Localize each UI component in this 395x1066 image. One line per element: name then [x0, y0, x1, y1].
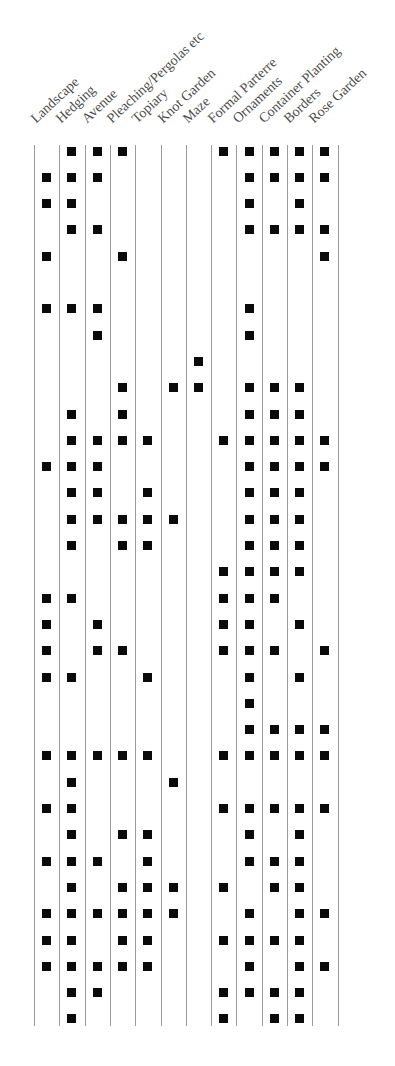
feature-marker: [245, 988, 254, 997]
feature-marker: [42, 594, 51, 603]
feature-marker: [270, 488, 279, 497]
feature-marker: [270, 804, 279, 813]
feature-marker: [194, 357, 203, 366]
feature-marker: [245, 594, 254, 603]
feature-marker: [67, 804, 76, 813]
feature-marker: [42, 646, 51, 655]
feature-marker: [295, 383, 304, 392]
feature-marker: [270, 225, 279, 234]
column-divider: [110, 145, 111, 1026]
feature-marker: [270, 646, 279, 655]
feature-marker: [320, 462, 329, 471]
feature-marker: [245, 383, 254, 392]
feature-marker: [67, 225, 76, 234]
feature-marker: [320, 751, 329, 760]
feature-marker: [245, 515, 254, 524]
feature-marker: [169, 515, 178, 524]
feature-marker: [67, 936, 76, 945]
feature-marker: [118, 147, 127, 156]
column-divider: [287, 145, 288, 1026]
feature-marker: [93, 646, 102, 655]
feature-marker: [295, 199, 304, 208]
feature-marker: [93, 436, 102, 445]
feature-marker: [245, 488, 254, 497]
feature-marker: [270, 436, 279, 445]
feature-marker: [245, 857, 254, 866]
feature-marker: [245, 699, 254, 708]
feature-marker: [219, 751, 228, 760]
feature-marker: [295, 147, 304, 156]
feature-marker: [42, 673, 51, 682]
feature-marker: [219, 804, 228, 813]
feature-marker: [320, 173, 329, 182]
feature-marker: [67, 778, 76, 787]
feature-marker: [270, 936, 279, 945]
feature-marker: [245, 804, 254, 813]
feature-marker: [245, 173, 254, 182]
feature-marker: [295, 620, 304, 629]
feature-marker: [245, 147, 254, 156]
feature-marker: [295, 541, 304, 550]
feature-marker: [93, 751, 102, 760]
column-divider: [262, 145, 263, 1026]
feature-marker: [245, 751, 254, 760]
feature-marker: [270, 988, 279, 997]
feature-marker: [143, 857, 152, 866]
column-divider: [338, 145, 339, 1026]
feature-marker: [295, 1014, 304, 1023]
feature-marker: [245, 225, 254, 234]
feature-marker: [42, 936, 51, 945]
feature-marker: [219, 620, 228, 629]
feature-marker: [295, 567, 304, 576]
feature-marker: [194, 383, 203, 392]
feature-marker: [270, 462, 279, 471]
feature-marker: [42, 909, 51, 918]
feature-marker: [42, 462, 51, 471]
feature-marker: [295, 883, 304, 892]
feature-marker: [93, 462, 102, 471]
feature-marker: [67, 410, 76, 419]
column-divider: [186, 145, 187, 1026]
feature-marker: [67, 751, 76, 760]
feature-marker: [245, 567, 254, 576]
feature-marker: [93, 488, 102, 497]
feature-marker: [169, 778, 178, 787]
feature-marker: [42, 173, 51, 182]
column-divider: [59, 145, 60, 1026]
feature-marker: [67, 199, 76, 208]
column-divider: [135, 145, 136, 1026]
feature-marker: [67, 488, 76, 497]
feature-marker: [118, 515, 127, 524]
feature-marker: [295, 515, 304, 524]
feature-marker: [245, 725, 254, 734]
feature-marker: [270, 410, 279, 419]
feature-marker: [143, 673, 152, 682]
feature-marker: [67, 594, 76, 603]
feature-marker: [118, 830, 127, 839]
feature-marker: [270, 1014, 279, 1023]
feature-marker: [169, 883, 178, 892]
feature-marker: [320, 225, 329, 234]
feature-marker: [67, 962, 76, 971]
feature-marker: [67, 541, 76, 550]
feature-marker: [93, 857, 102, 866]
feature-marker: [143, 962, 152, 971]
feature-marker: [118, 936, 127, 945]
feature-marker: [219, 1014, 228, 1023]
feature-marker: [118, 909, 127, 918]
feature-marker: [245, 909, 254, 918]
feature-marker: [67, 883, 76, 892]
feature-marker: [67, 515, 76, 524]
feature-marker: [219, 147, 228, 156]
feature-marker: [219, 436, 228, 445]
feature-marker: [245, 620, 254, 629]
column-divider: [236, 145, 237, 1026]
feature-marker: [245, 331, 254, 340]
feature-marker: [143, 909, 152, 918]
feature-marker: [219, 594, 228, 603]
feature-marker: [143, 830, 152, 839]
feature-marker: [67, 1014, 76, 1023]
feature-marker: [320, 909, 329, 918]
garden-features-matrix: LandscapeHedgingAvenuePleaching/Pergolas…: [0, 0, 395, 1066]
feature-marker: [42, 962, 51, 971]
